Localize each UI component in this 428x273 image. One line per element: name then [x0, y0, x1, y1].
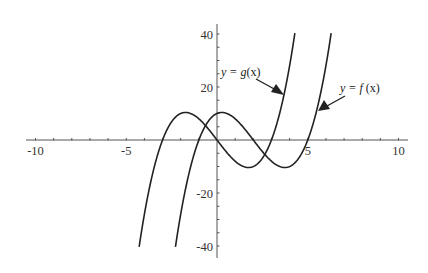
annotation-g-label: y = g(x) — [220, 65, 260, 79]
annotation-f: y = f (x) — [318, 81, 380, 111]
annotation-g: y = g(x) — [220, 65, 284, 95]
x-tick-label: 10 — [392, 144, 405, 158]
y-tick-label: 20 — [201, 81, 214, 95]
x-tick-label: -5 — [121, 144, 131, 158]
x-axis-tick-labels: -10-5510 — [27, 144, 405, 158]
y-tick-label: -40 — [196, 240, 213, 254]
y-axis: 4020-20-40 — [196, 24, 219, 258]
annotation-f-label: y = f (x) — [339, 81, 380, 95]
y-tick-label: 40 — [201, 28, 214, 42]
x-tick-label: -10 — [27, 144, 44, 158]
arrow-f-shaft — [327, 96, 345, 106]
arrow-g-head-icon — [271, 84, 284, 95]
chart: -10-5510 4020-20-40 y = g(x) y = f (x) — [0, 0, 428, 273]
y-tick-label: -20 — [196, 187, 213, 201]
arrow-g-shaft — [256, 79, 276, 90]
